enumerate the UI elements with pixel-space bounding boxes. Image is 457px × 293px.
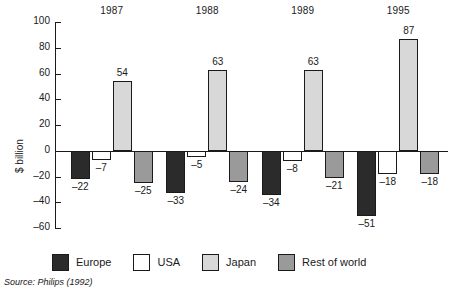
y-axis-tick-label: –20 bbox=[8, 170, 50, 181]
bar-value-label: –22 bbox=[60, 181, 100, 192]
bar-chart: $ billion 100806040200–20–40–601987–22–7… bbox=[0, 0, 457, 293]
bar-value-label: 54 bbox=[102, 67, 142, 78]
legend-label: Europe bbox=[76, 256, 111, 268]
y-axis-tick-label: 60 bbox=[8, 67, 50, 78]
y-axis-tick-label: 0 bbox=[8, 144, 50, 155]
legend-swatch-icon bbox=[52, 254, 69, 271]
y-axis-tick-label: 20 bbox=[8, 118, 50, 129]
chart-legend: EuropeUSAJapanRest of world bbox=[52, 250, 388, 274]
legend-label: Japan bbox=[226, 256, 256, 268]
legend-item-japan[interactable]: Japan bbox=[202, 254, 256, 271]
y-axis-tick bbox=[56, 228, 61, 229]
bar-europe-1988 bbox=[166, 151, 185, 193]
legend-swatch-icon bbox=[133, 254, 150, 271]
bar-japan-1989 bbox=[304, 70, 323, 151]
bar-value-label: –7 bbox=[81, 162, 121, 173]
source-note: Source: Philips (1992) bbox=[4, 277, 93, 287]
legend-item-usa[interactable]: USA bbox=[133, 254, 180, 271]
y-axis-tick bbox=[56, 48, 61, 49]
y-axis-tick bbox=[56, 125, 61, 126]
bar-rest-of-world-1995 bbox=[420, 151, 439, 174]
y-axis-tick bbox=[56, 22, 61, 23]
bar-value-label: –24 bbox=[219, 184, 259, 195]
y-axis-tick bbox=[56, 151, 61, 152]
y-axis-tick-label: 100 bbox=[8, 15, 50, 26]
legend-item-europe[interactable]: Europe bbox=[52, 254, 111, 271]
bar-rest-of-world-1988 bbox=[229, 151, 248, 182]
bar-value-label: 87 bbox=[389, 25, 429, 36]
legend-label: USA bbox=[157, 256, 180, 268]
y-axis-tick-label: 80 bbox=[8, 41, 50, 52]
y-axis-tick bbox=[56, 202, 61, 203]
group-title-1995: 1995 bbox=[337, 5, 457, 16]
bar-rest-of-world-1989 bbox=[325, 151, 344, 178]
bar-value-label: 63 bbox=[198, 56, 238, 67]
bar-value-label: –5 bbox=[177, 159, 217, 170]
bar-japan-1988 bbox=[208, 70, 227, 151]
y-axis-tick-label: 40 bbox=[8, 92, 50, 103]
bar-usa-1987 bbox=[92, 151, 111, 160]
bar-value-label: –34 bbox=[251, 197, 291, 208]
bar-japan-1987 bbox=[113, 81, 132, 151]
legend-label: Rest of world bbox=[302, 256, 366, 268]
bar-value-label: –18 bbox=[368, 176, 408, 187]
bar-value-label: –18 bbox=[410, 176, 450, 187]
bar-usa-1995 bbox=[378, 151, 397, 174]
y-axis-tick bbox=[56, 177, 61, 178]
bar-value-label: –51 bbox=[347, 218, 387, 229]
y-axis-tick bbox=[56, 74, 61, 75]
bar-rest-of-world-1987 bbox=[134, 151, 153, 183]
legend-item-rest-of-world[interactable]: Rest of world bbox=[278, 254, 366, 271]
bar-value-label: –33 bbox=[156, 195, 196, 206]
bar-value-label: –8 bbox=[272, 163, 312, 174]
y-axis-tick-label: –60 bbox=[8, 221, 50, 232]
bar-usa-1988 bbox=[187, 151, 206, 157]
bar-usa-1989 bbox=[283, 151, 302, 161]
bar-value-label: –21 bbox=[314, 180, 354, 191]
bar-japan-1995 bbox=[399, 39, 418, 151]
bar-value-label: 63 bbox=[293, 56, 333, 67]
legend-swatch-icon bbox=[278, 254, 295, 271]
legend-swatch-icon bbox=[202, 254, 219, 271]
y-axis-tick-label: –40 bbox=[8, 195, 50, 206]
y-axis-tick bbox=[56, 99, 61, 100]
